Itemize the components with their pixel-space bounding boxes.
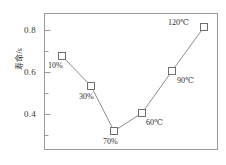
y-axis-title: 寿命/s: [15, 56, 24, 70]
data-point-70pct[interactable]: [111, 128, 118, 135]
data-label-70pct: 70%: [103, 137, 118, 146]
y-axis-tick-label-0: 0.8: [24, 25, 36, 35]
data-label-10pct: 10%: [48, 61, 63, 70]
data-point-120c[interactable]: [201, 24, 208, 31]
chart-figure: 0.8 0.6 0.4 寿命/s 10% 30% 70% 60℃ 90℃ 120…: [0, 0, 226, 165]
data-point-90c[interactable]: [169, 68, 176, 75]
data-label-30pct: 30%: [79, 92, 94, 101]
y-axis-tick-label-2: 0.4: [24, 109, 36, 119]
y-axis-tick-label-1: 0.6: [24, 67, 36, 77]
data-point-60c[interactable]: [139, 110, 146, 117]
data-label-90c: 90℃: [177, 76, 194, 85]
data-point-10pct[interactable]: [59, 53, 66, 60]
data-label-120c: 120℃: [168, 18, 189, 27]
data-point-30pct[interactable]: [88, 83, 95, 90]
data-label-60c: 60℃: [146, 118, 163, 127]
